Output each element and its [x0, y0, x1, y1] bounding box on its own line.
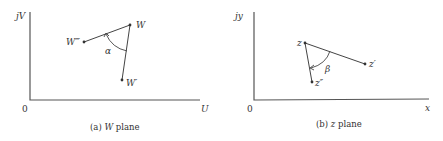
w1-label: W′: [126, 78, 137, 88]
point-z2: [311, 81, 314, 84]
w3-label: W‴: [66, 37, 80, 47]
point-z: [304, 42, 307, 45]
w-plane-panel: jV 0 U W W‴ W′ α (a) W plane: [14, 11, 209, 132]
point-w: [129, 24, 132, 27]
z-label: z: [296, 38, 302, 48]
z-plane-panel: jy 0 x z z′ z″ β (b) z plane: [233, 11, 430, 129]
w-plane-caption: (a) W plane: [90, 122, 140, 132]
conformal-mapping-figure: jV 0 U W W‴ W′ α (a) W plane jy 0 x z z′…: [0, 0, 443, 141]
z-plane-caption: (b) z plane: [316, 119, 362, 129]
z1-label: z′: [368, 59, 376, 69]
beta-label: β: [324, 64, 330, 74]
w-origin-label: 0: [22, 104, 28, 114]
z-origin-label: 0: [247, 104, 253, 114]
w-plane-axes: [30, 12, 200, 100]
segment-z-z1: [305, 43, 365, 64]
jv-axis-label: jV: [14, 11, 27, 21]
segment-w-w1: [122, 25, 130, 80]
u-axis-label: U: [201, 104, 209, 114]
jy-axis-label: jy: [233, 11, 244, 21]
x-axis-label: x: [425, 103, 430, 113]
point-w3: [83, 41, 86, 44]
point-z1: [364, 63, 367, 66]
point-w1: [121, 79, 124, 82]
segment-z-z2: [305, 43, 312, 82]
alpha-label: α: [105, 46, 111, 56]
z2-label: z″: [314, 78, 324, 88]
w-label: W: [136, 20, 146, 30]
